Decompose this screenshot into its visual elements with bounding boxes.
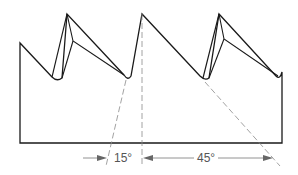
clearance-arrow-left-icon [143,155,153,161]
saw-tooth-diagram: 15° 45° [0,0,298,175]
clearance-angle-line [205,82,280,166]
clearance-angle-label: 45° [197,151,215,165]
rake-arrow-icon [97,155,107,161]
rake-angle-label: 15° [114,151,132,165]
